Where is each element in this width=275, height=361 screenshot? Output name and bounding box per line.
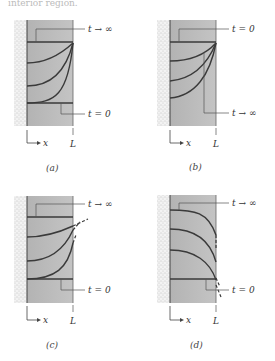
wall-hatch (14, 20, 27, 126)
panel-b: t = 0 t → ∞ x L (b) (157, 20, 256, 172)
caption-c: (c) (46, 340, 59, 350)
extrapolation-dash (73, 219, 88, 226)
wall-hatch (14, 196, 27, 303)
slab (27, 196, 73, 303)
caption-a: (a) (46, 163, 59, 173)
length-label-L: L (69, 316, 76, 326)
panel-d: t → ∞ t = 0 x L (d) (157, 195, 256, 350)
caption-b: (b) (189, 162, 202, 172)
caption-d: (d) (190, 340, 203, 350)
label-top: t → ∞ (88, 24, 112, 34)
wall-hatch (157, 195, 170, 303)
label-bottom: t = 0 (88, 109, 111, 119)
axis-label-x: x (186, 138, 191, 148)
panel-c: t → ∞ t = 0 x L (c) (14, 196, 112, 350)
header-text-fragment: interior region. (8, 0, 78, 8)
label-top: t = 0 (232, 24, 255, 34)
label-top: t → ∞ (232, 198, 256, 208)
x-axis-arrow (27, 306, 37, 320)
label-top: t → ∞ (88, 199, 112, 209)
label-bottom: t = 0 (88, 285, 111, 295)
x-axis-arrow (170, 130, 180, 143)
axis-label-x: x (186, 315, 191, 325)
axis-label-x: x (43, 315, 48, 325)
label-bottom: t → ∞ (232, 108, 256, 118)
axis-label-x: x (43, 138, 48, 148)
length-label-L: L (212, 316, 219, 326)
length-label-L: L (69, 139, 76, 149)
x-axis-arrow (27, 130, 37, 143)
wall-hatch (157, 20, 170, 126)
panel-a: t → ∞ t = 0 x L (a) (14, 20, 112, 173)
transient-profiles-diagram: interior region. t → ∞ t = 0 x L (a) (0, 0, 275, 361)
x-axis-arrow (170, 306, 180, 320)
slab (27, 20, 73, 126)
label-bottom: t = 0 (232, 285, 255, 295)
length-label-L: L (212, 139, 219, 149)
